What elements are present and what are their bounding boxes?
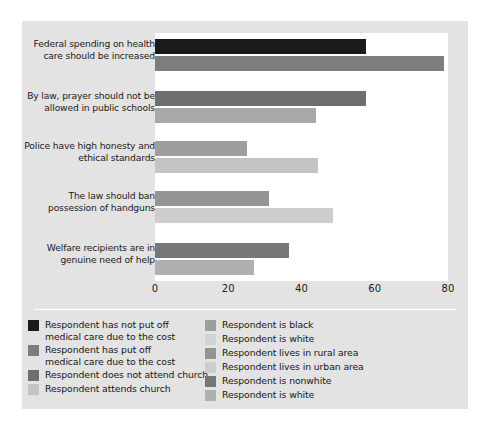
x-tick-label: 0 xyxy=(152,283,159,294)
bar xyxy=(155,208,333,223)
bars-container xyxy=(22,21,468,289)
bar xyxy=(155,39,366,54)
plot-area: Federal spending on health care should b… xyxy=(22,21,468,289)
legend-swatch xyxy=(205,376,216,387)
x-tick-label: 60 xyxy=(368,283,381,294)
legend-swatch xyxy=(28,384,39,395)
legend-swatch xyxy=(28,320,39,331)
x-tick-label: 20 xyxy=(222,283,235,294)
legend-item[interactable]: Respondent is nonwhite xyxy=(205,375,445,387)
bar xyxy=(155,260,254,275)
legend-label: Respondent attends church xyxy=(45,383,171,395)
legend-swatch xyxy=(205,362,216,373)
chart-figure: Federal spending on health care should b… xyxy=(22,21,468,409)
legend-swatch xyxy=(205,390,216,401)
legend-swatch xyxy=(205,334,216,345)
bar xyxy=(155,141,247,156)
x-tick-label: 80 xyxy=(441,283,454,294)
bar xyxy=(155,91,366,106)
legend-swatch xyxy=(205,320,216,331)
bar xyxy=(155,191,269,206)
legend-label: Respondent does not attend church xyxy=(45,369,208,381)
legend-item[interactable]: Respondent has put off medical care due … xyxy=(28,344,218,367)
legend-item[interactable]: Respondent is black xyxy=(205,319,445,331)
bar xyxy=(155,56,444,71)
legend-separator xyxy=(34,309,456,310)
legend-item[interactable]: Respondent is white xyxy=(205,333,445,345)
legend-item[interactable]: Respondent lives in urban area xyxy=(205,361,445,373)
legend-column-left: Respondent has not put off medical care … xyxy=(28,319,218,397)
legend-item[interactable]: Respondent is white xyxy=(205,389,445,401)
legend-label: Respondent is black xyxy=(222,319,313,331)
legend-swatch xyxy=(28,345,39,356)
legend-label: Respondent has not put off medical care … xyxy=(45,319,175,342)
legend-label: Respondent is white xyxy=(222,333,314,345)
legend-item[interactable]: Respondent attends church xyxy=(28,383,218,395)
legend-item[interactable]: Respondent lives in rural area xyxy=(205,347,445,359)
bar xyxy=(155,243,289,258)
legend-label: Respondent is nonwhite xyxy=(222,375,331,387)
legend-column-right: Respondent is blackRespondent is whiteRe… xyxy=(205,319,445,403)
legend-swatch xyxy=(28,370,39,381)
legend-swatch xyxy=(205,348,216,359)
legend-label: Respondent lives in urban area xyxy=(222,361,364,373)
legend-label: Respondent is white xyxy=(222,389,314,401)
legend-item[interactable]: Respondent has not put off medical care … xyxy=(28,319,218,342)
legend-label: Respondent lives in rural area xyxy=(222,347,358,359)
legend-label: Respondent has put off medical care due … xyxy=(45,344,175,367)
x-tick-label: 40 xyxy=(295,283,308,294)
bar xyxy=(155,158,318,173)
bar xyxy=(155,108,316,123)
legend-item[interactable]: Respondent does not attend church xyxy=(28,369,218,381)
